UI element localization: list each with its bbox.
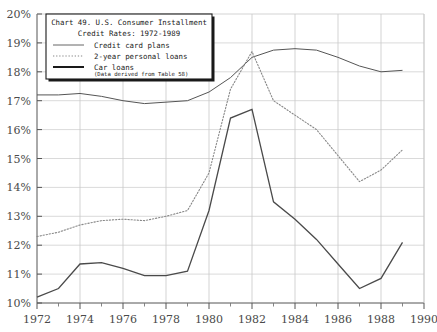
legend-title-line1: Chart 49. U.S. Consumer Installment (51, 18, 207, 27)
y-axis-tick-label: 17% (7, 95, 31, 108)
x-axis-tick-label: 1990 (410, 313, 437, 326)
consumer-credit-rates-chart: 10%11%12%13%14%15%16%17%18%19%20% 197219… (0, 0, 437, 332)
x-axis-tick-label: 1978 (152, 313, 180, 326)
legend-title-line2: Credit Rates: 1972-1989 (78, 29, 180, 38)
x-axis-tick-label: 1972 (23, 313, 51, 326)
y-axis-tick-label: 19% (7, 37, 31, 50)
y-axis-tick-label: 18% (7, 66, 31, 79)
y-axis-tick-label: 11% (7, 268, 31, 281)
x-axis-tick-label: 1986 (324, 313, 352, 326)
legend-item-label-1: 2-year personal loans (94, 52, 187, 61)
y-axis-tick-label: 13% (7, 210, 31, 223)
series-lines (37, 49, 403, 298)
legend-box: Chart 49. U.S. Consumer InstallmentCredi… (46, 14, 215, 82)
x-axis-tick-label: 1982 (238, 313, 266, 326)
x-axis-tick-label: 1980 (195, 313, 223, 326)
legend-source-note: (Data derived from Table 58) (94, 71, 188, 77)
y-axis-tick-label: 12% (7, 239, 31, 252)
y-axis-tick-label: 16% (7, 124, 31, 137)
x-axis-ticks: 1972197419761978198019821984198619881990 (23, 303, 437, 326)
x-axis-tick-label: 1974 (66, 313, 94, 326)
x-axis-tick-label: 1988 (367, 313, 395, 326)
y-axis-tick-label: 10% (7, 297, 31, 310)
legend-item-label-0: Credit card plans (94, 41, 170, 50)
chart-page: 10%11%12%13%14%15%16%17%18%19%20% 197219… (0, 0, 437, 332)
y-axis-tick-label: 14% (7, 181, 31, 194)
x-axis-tick-label: 1984 (281, 313, 309, 326)
series-line-2 (37, 109, 403, 297)
y-axis-tick-label: 20% (7, 8, 31, 21)
y-axis-tick-label: 15% (7, 153, 31, 166)
x-axis-tick-label: 1976 (109, 313, 137, 326)
